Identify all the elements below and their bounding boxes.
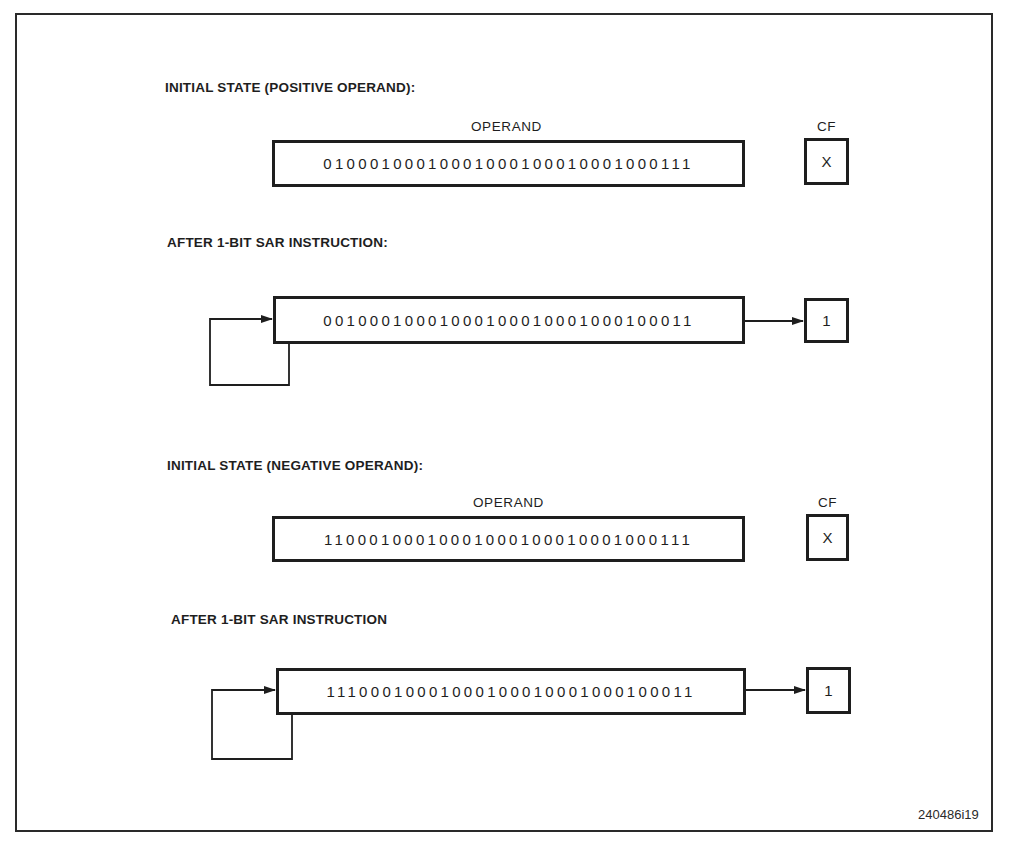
section-title-positive-after: AFTER 1-BIT SAR INSTRUCTION: [167, 235, 388, 250]
cf-header: CF [818, 495, 837, 510]
carry-flag-value: 1 [824, 682, 832, 699]
carry-flag-value: 1 [822, 312, 830, 329]
operand-bits: 11000100010001000100010001000111 [324, 531, 693, 548]
carry-flag-box: 1 [804, 298, 849, 343]
operand-register-negative-after: 11100010001000100010001000100011 [276, 668, 746, 715]
carry-flag-box: X [806, 514, 849, 561]
operand-header: OPERAND [471, 119, 542, 134]
section-title-negative-after: AFTER 1-BIT SAR INSTRUCTION [171, 612, 387, 627]
carry-flag-box: X [804, 138, 849, 185]
section-title-positive-initial: INITIAL STATE (POSITIVE OPERAND): [165, 80, 415, 95]
operand-bits: 01000100010001000100010001000111 [323, 155, 693, 172]
carry-flag-value: X [822, 529, 832, 546]
operand-bits: 00100010001000100010001000100011 [323, 312, 694, 329]
figure-id-label: 240486i19 [918, 807, 979, 822]
operand-bits: 11100010001000100010001000100011 [326, 683, 695, 700]
carry-flag-box: 1 [806, 667, 851, 714]
section-title-negative-initial: INITIAL STATE (NEGATIVE OPERAND): [167, 458, 423, 473]
operand-register-positive-initial: 01000100010001000100010001000111 [272, 140, 745, 187]
operand-header: OPERAND [473, 495, 544, 510]
carry-flag-value: X [821, 153, 831, 170]
operand-register-positive-after: 00100010001000100010001000100011 [273, 296, 745, 344]
operand-register-negative-initial: 11000100010001000100010001000111 [272, 516, 745, 562]
cf-header: CF [817, 119, 836, 134]
